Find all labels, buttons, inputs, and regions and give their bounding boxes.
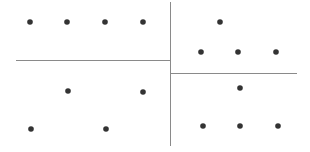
- region-top-right: [198, 19, 279, 55]
- diagram-svg: [0, 0, 310, 152]
- dot: [200, 123, 206, 129]
- dot-partition-diagram: [0, 0, 310, 152]
- dot: [28, 126, 34, 132]
- dot: [237, 123, 243, 129]
- dot: [237, 85, 243, 91]
- dot: [217, 19, 223, 25]
- divider-lines: [16, 2, 297, 146]
- dot-groups: [27, 19, 281, 132]
- dot: [65, 88, 71, 94]
- region-top-left: [27, 19, 146, 25]
- dot: [102, 19, 108, 25]
- dot: [103, 126, 109, 132]
- region-bottom-right: [200, 85, 281, 129]
- dot: [140, 19, 146, 25]
- region-bottom-left: [28, 88, 146, 132]
- dot: [235, 49, 241, 55]
- dot: [198, 49, 204, 55]
- dot: [140, 89, 146, 95]
- dot: [27, 19, 33, 25]
- dot: [64, 19, 70, 25]
- dot: [273, 49, 279, 55]
- dot: [275, 123, 281, 129]
